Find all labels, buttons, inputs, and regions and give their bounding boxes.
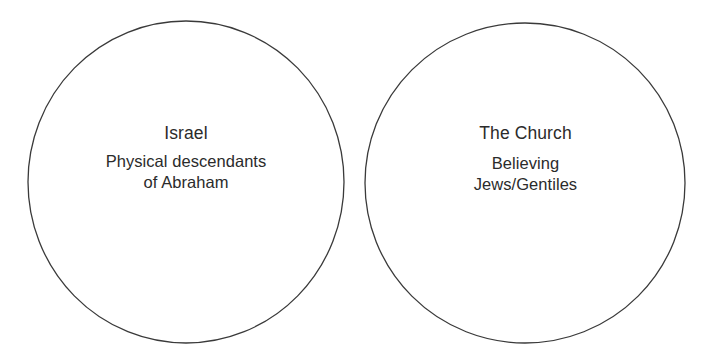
church-title: The Church: [388, 122, 663, 144]
diagram-canvas: Israel Physical descendants of Abraham T…: [0, 0, 716, 358]
church-label-group: The Church Believing Jews/Gentiles: [388, 122, 663, 195]
church-description-line-1: Believing: [388, 153, 663, 174]
israel-description-line-1: Physical descendants: [36, 151, 336, 172]
israel-description-line-2: of Abraham: [36, 172, 336, 193]
israel-title: Israel: [36, 122, 336, 144]
israel-label-group: Israel Physical descendants of Abraham: [36, 122, 336, 193]
church-description-line-2: Jews/Gentiles: [388, 174, 663, 195]
